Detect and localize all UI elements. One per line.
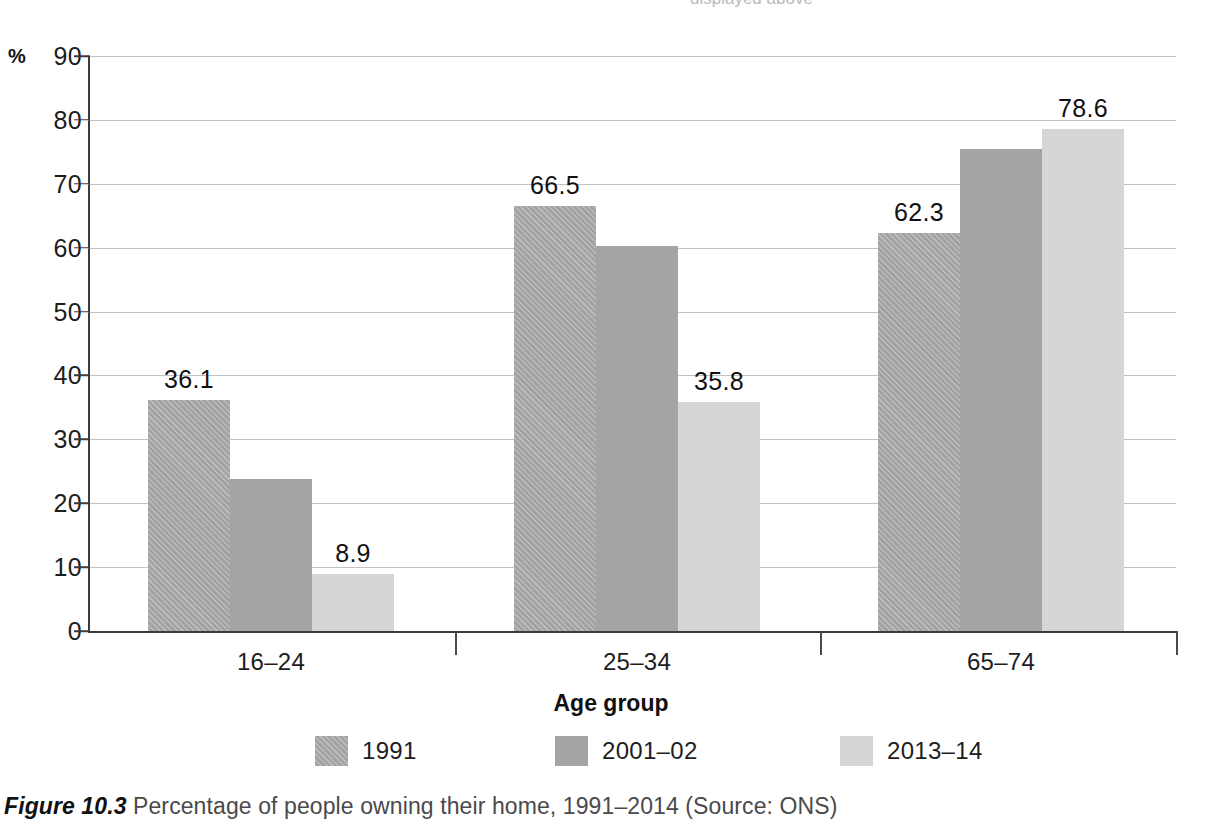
y-axis-tick-mark [74, 311, 90, 313]
y-axis-tick-mark [74, 183, 90, 185]
bar-value-label: 66.5 [530, 171, 580, 200]
y-axis-tick-mark [74, 502, 90, 504]
chart-legend: 19912001–022013–14 [0, 736, 1222, 776]
bar-value-label: 36.1 [164, 365, 214, 394]
y-axis-tick-mark [74, 55, 90, 57]
y-axis-tick-mark [74, 375, 90, 377]
x-axis-title: Age group [0, 690, 1222, 717]
x-axis-category-label: 65–74 [967, 648, 1035, 676]
y-axis-tick-label: 20 [22, 489, 82, 518]
bar-value-label: 62.3 [894, 198, 944, 227]
y-axis-tick-label: 70 [22, 169, 82, 198]
y-axis-tick-label: 60 [22, 233, 82, 262]
legend-label: 1991 [362, 737, 417, 765]
bar-1991-16-24 [148, 400, 230, 631]
bar-1991-25-34 [514, 206, 596, 631]
legend-swatch-icon [555, 736, 588, 766]
axis-baseline [88, 631, 1176, 633]
x-axis-category-label: 16–24 [237, 648, 305, 676]
x-axis-tick-mark [1176, 631, 1178, 655]
y-axis-tick-label: 0 [22, 617, 82, 646]
bar-value-label: 8.9 [335, 539, 371, 568]
y-axis-tick-mark [74, 119, 90, 121]
bar-value-label: 35.8 [694, 367, 744, 396]
y-axis-tick-label: 80 [22, 105, 82, 134]
y-axis-tick-mark [74, 566, 90, 568]
y-axis-tick-label: 40 [22, 361, 82, 390]
figure-chart: % Age group 19912001–022013–14 Figure 10… [0, 0, 1222, 834]
legend-swatch-icon [315, 736, 348, 766]
y-axis-tick-mark [74, 439, 90, 441]
bar-2013-14-16-24 [312, 574, 394, 631]
x-axis-tick-mark [455, 631, 457, 655]
legend-label: 2013–14 [887, 737, 983, 765]
x-axis-category-label: 25–34 [603, 648, 671, 676]
bar-1991-65-74 [878, 233, 960, 631]
bar-2013-14-25-34 [678, 402, 760, 631]
y-axis-tick-label: 90 [22, 42, 82, 71]
y-axis-tick-mark [74, 630, 90, 632]
legend-item[interactable]: 2013–14 [840, 736, 983, 766]
y-axis-tick-label: 30 [22, 425, 82, 454]
bar-2001-02-16-24 [230, 479, 312, 631]
legend-label: 2001–02 [602, 737, 698, 765]
bar-2001-02-25-34 [596, 246, 678, 631]
figure-caption-text: Percentage of people owning their home, … [127, 793, 838, 819]
plot-area [88, 56, 1176, 631]
bar-2001-02-65-74 [960, 149, 1042, 631]
figure-number: Figure 10.3 [4, 793, 127, 819]
y-axis-tick-label: 50 [22, 297, 82, 326]
x-axis-tick-mark [820, 631, 822, 655]
bar-value-label: 78.6 [1058, 94, 1108, 123]
y-axis-tick-label: 10 [22, 553, 82, 582]
legend-item[interactable]: 2001–02 [555, 736, 698, 766]
legend-swatch-icon [840, 736, 873, 766]
bar-2013-14-65-74 [1042, 129, 1124, 631]
legend-item[interactable]: 1991 [315, 736, 417, 766]
figure-caption: Figure 10.3 Percentage of people owning … [4, 793, 837, 820]
y-axis-tick-mark [74, 247, 90, 249]
gridline [88, 56, 1176, 57]
gridline [88, 120, 1176, 121]
